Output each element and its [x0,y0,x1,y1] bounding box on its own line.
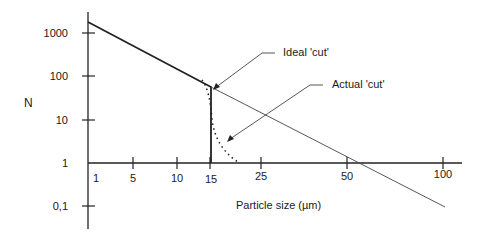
y-tick-label: 0,1 [28,200,68,212]
actual-cut-annotation: Actual 'cut' [332,78,385,90]
x-tick-label: 15 [196,173,226,185]
ideal-cut-annotation: Ideal 'cut' [283,46,329,58]
x-tick-label: 50 [332,170,362,182]
ideal-cut-arrowhead [213,83,220,90]
x-axis-label: Particle size (µm) [236,199,321,211]
ideal-cut-leader [215,53,275,88]
x-tick-label: 1 [81,172,111,184]
y-axis-label: N [24,97,33,109]
y-tick-label: 1 [28,157,68,169]
x-tick-label: 5 [118,172,148,184]
actual-cut-curve [202,80,238,162]
x-tick-label: 100 [428,168,458,180]
y-tick-label: 10 [28,114,68,126]
y-tick-label: 100 [28,70,68,82]
ideal-cut-line [88,22,211,163]
x-tick-label: 10 [162,172,192,184]
x-tick-label: 25 [246,170,276,182]
y-tick-label: 1000 [28,27,68,39]
extrapolated-line [211,87,445,207]
actual-cut-leader [230,85,323,139]
actual-cut-arrowhead [227,135,234,142]
